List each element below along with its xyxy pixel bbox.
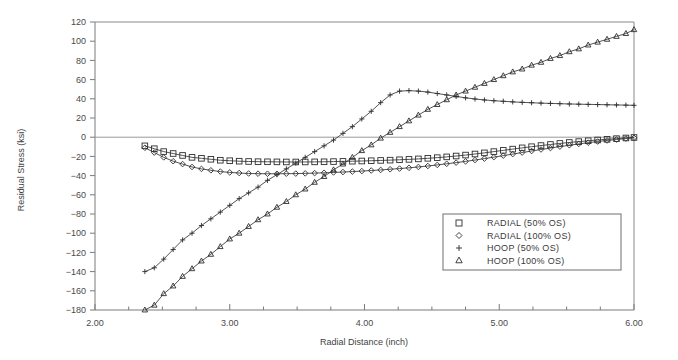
x-axis-title: Radial Distance (inch) — [320, 337, 408, 347]
series-polyline — [145, 137, 634, 161]
y-tick-label: −160 — [66, 286, 86, 296]
data-point-plus — [576, 102, 581, 107]
data-point-plus — [416, 89, 421, 94]
data-point-plus — [463, 95, 468, 100]
data-point-plus — [520, 100, 525, 105]
y-tick-label: −140 — [66, 267, 86, 277]
x-tick-label: 4.00 — [356, 318, 374, 328]
legend-entry-label: HOOP (50% OS) — [487, 243, 559, 253]
y-tick-label: −80 — [71, 209, 86, 219]
data-point-plus — [397, 89, 402, 94]
x-tick-label: 6.00 — [625, 318, 643, 328]
data-point-plus — [425, 89, 430, 94]
y-tick-label: 80 — [76, 56, 86, 66]
x-axis-ticks: 2.003.004.005.006.00 — [86, 304, 643, 328]
y-tick-label: −120 — [66, 248, 86, 258]
data-point-plus — [284, 166, 289, 171]
data-point-plus — [557, 101, 562, 106]
data-point-plus — [435, 91, 440, 96]
y-axis-title: Residual Stress (ksi) — [16, 129, 26, 212]
legend-entry-label: HOOP (100% OS) — [487, 256, 565, 266]
data-point-plus — [586, 102, 591, 107]
data-point-plus — [548, 101, 553, 106]
y-tick-label: −180 — [66, 305, 86, 315]
series-radial-50-os — [142, 135, 637, 165]
chart-figure: −180−160−140−120−100−80−60−40−2002040608… — [0, 0, 678, 360]
data-point-plus — [614, 102, 619, 107]
data-point-plus — [529, 100, 534, 105]
y-tick-label: −20 — [71, 152, 86, 162]
legend-entry-label: RADIAL (50% OS) — [487, 218, 566, 228]
y-tick-label: 0 — [81, 132, 86, 142]
data-point-plus — [472, 96, 477, 101]
y-tick-label: −40 — [71, 171, 86, 181]
diamond-marker — [142, 145, 148, 151]
data-point-plus — [510, 99, 515, 104]
x-tick-label: 3.00 — [221, 318, 239, 328]
y-tick-label: 60 — [76, 75, 86, 85]
data-point-plus — [631, 103, 636, 108]
data-point-plus — [312, 149, 317, 154]
x-tick-label: 2.00 — [86, 318, 104, 328]
residual-stress-line-chart: −180−160−140−120−100−80−60−40−2002040608… — [0, 0, 678, 360]
y-tick-label: −60 — [71, 190, 86, 200]
data-point-plus — [406, 88, 411, 93]
data-point-plus — [321, 143, 326, 148]
y-tick-label: 120 — [71, 17, 86, 27]
data-point-plus — [538, 101, 543, 106]
data-point-plus — [595, 102, 600, 107]
data-point-diamond — [142, 145, 148, 151]
legend-entry-label: RADIAL (100% OS) — [487, 231, 571, 241]
data-point-plus — [482, 97, 487, 102]
y-tick-label: 100 — [71, 36, 86, 46]
y-tick-label: −100 — [66, 228, 86, 238]
chart-legend: RADIAL (50% OS)RADIAL (100% OS)HOOP (50%… — [443, 214, 621, 270]
y-axis-ticks: −180−160−140−120−100−80−60−40−2002040608… — [66, 17, 95, 315]
data-point-plus — [246, 190, 251, 195]
data-point-plus — [491, 98, 496, 103]
data-point-plus — [623, 103, 628, 108]
data-point-plus — [604, 102, 609, 107]
x-tick-label: 5.00 — [490, 318, 508, 328]
y-tick-label: 40 — [76, 94, 86, 104]
data-point-plus — [567, 101, 572, 106]
data-point-plus — [142, 269, 147, 274]
data-point-plus — [501, 99, 506, 104]
y-tick-label: 20 — [76, 113, 86, 123]
